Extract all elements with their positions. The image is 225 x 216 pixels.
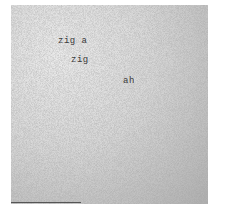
typed-word: ah [123, 77, 135, 86]
scanned-page: zig a zig ah [0, 0, 225, 216]
typed-word: zig a [58, 37, 88, 46]
noise-texture [11, 5, 208, 204]
noisy-scan-area [11, 5, 208, 204]
scan-edge-line [11, 202, 81, 203]
typed-word: zig [71, 56, 89, 65]
